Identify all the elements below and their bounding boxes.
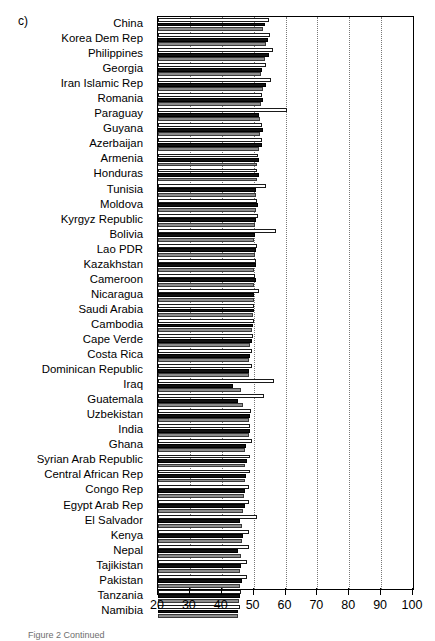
bar-group xyxy=(158,363,413,378)
bar-coping xyxy=(158,57,265,61)
bar-sensitivity xyxy=(158,154,258,158)
bar-resilience xyxy=(158,309,254,313)
bar-coping xyxy=(158,313,253,317)
category-label: Kenya xyxy=(0,528,148,543)
bar-resilience xyxy=(158,218,256,222)
bar-resilience xyxy=(158,23,265,27)
category-label: Philippines xyxy=(0,46,148,61)
bar-resilience xyxy=(158,233,255,237)
x-tick xyxy=(221,588,222,595)
bar-resilience xyxy=(158,188,256,192)
bar-group xyxy=(158,183,413,198)
bar-coping xyxy=(158,223,255,227)
bar-resilience xyxy=(158,173,259,177)
category-label: Cameroon xyxy=(0,272,148,287)
bar-group xyxy=(158,168,413,183)
bar-sensitivity xyxy=(158,244,257,248)
bar-coping xyxy=(158,132,260,136)
bar-coping xyxy=(158,464,245,468)
bar-resilience xyxy=(158,98,263,102)
bar-group xyxy=(158,453,413,468)
bar-sensitivity xyxy=(158,93,262,97)
bar-group xyxy=(158,62,413,77)
bar-coping xyxy=(158,268,254,272)
bar-sensitivity xyxy=(158,409,251,413)
bar-sensitivity xyxy=(158,48,273,52)
bar-resilience xyxy=(158,444,246,448)
bar-resilience xyxy=(158,414,250,418)
bar-group xyxy=(158,544,413,559)
bar-coping xyxy=(158,448,245,452)
bar-group xyxy=(158,333,413,348)
bar-coping xyxy=(158,147,259,151)
category-label: Bolivia xyxy=(0,227,148,242)
category-label: Azerbaijan xyxy=(0,136,148,151)
category-label: El Salvador xyxy=(0,513,148,528)
bar-coping xyxy=(158,403,243,407)
bar-sensitivity xyxy=(158,515,257,519)
bar-sensitivity xyxy=(158,138,262,142)
bar-sensitivity xyxy=(158,485,249,489)
bar-group xyxy=(158,499,413,514)
bar-coping xyxy=(158,494,244,498)
bar-group xyxy=(158,529,413,544)
bar-sensitivity xyxy=(158,289,259,293)
x-tick xyxy=(316,588,317,595)
bar-resilience xyxy=(158,263,256,267)
bar-group xyxy=(158,32,413,47)
x-tick-label: 100 xyxy=(392,598,432,612)
bar-group xyxy=(158,77,413,92)
bar-coping xyxy=(158,27,263,31)
bar-sensitivity xyxy=(158,439,252,443)
bar-coping xyxy=(158,238,254,242)
bar-coping xyxy=(158,208,256,212)
figure-caption: Figure 2 Continued xyxy=(28,630,105,640)
x-tick xyxy=(253,588,254,595)
bar-coping xyxy=(158,178,257,182)
bar-coping xyxy=(158,283,254,287)
bar-group xyxy=(158,198,413,213)
bar-sensitivity xyxy=(158,455,250,459)
bar-group xyxy=(158,243,413,258)
plot-inner xyxy=(158,17,413,589)
category-label: Armenia xyxy=(0,151,148,166)
bar-group xyxy=(158,574,413,589)
bar-group xyxy=(158,273,413,288)
category-label: Uzbekistan xyxy=(0,407,148,422)
category-label: China xyxy=(0,16,148,31)
bar-group xyxy=(158,137,413,152)
bar-sensitivity xyxy=(158,379,274,383)
category-label: India xyxy=(0,422,148,437)
bar-group xyxy=(158,228,413,243)
bar-coping xyxy=(158,298,254,302)
bar-coping xyxy=(158,343,250,347)
category-label: Lao PDR xyxy=(0,242,148,257)
bar-sensitivity xyxy=(158,108,287,112)
category-label: Romania xyxy=(0,91,148,106)
category-label: Guyana xyxy=(0,121,148,136)
bar-resilience xyxy=(158,68,262,72)
bar-group xyxy=(158,423,413,438)
category-label: Korea Dem Rep xyxy=(0,31,148,46)
bar-resilience xyxy=(158,429,250,433)
category-axis-labels: ChinaKorea Dem RepPhilippinesGeorgiaIran… xyxy=(0,16,148,618)
category-label: Dominican Republic xyxy=(0,362,148,377)
bar-sensitivity xyxy=(158,560,247,564)
bar-sensitivity xyxy=(158,18,269,22)
bar-sensitivity xyxy=(158,78,271,82)
bar-group xyxy=(158,318,413,333)
category-label: Cape Verde xyxy=(0,332,148,347)
bar-resilience xyxy=(158,339,252,343)
bar-coping xyxy=(158,102,261,106)
bar-coping xyxy=(158,253,255,257)
category-label: Guatemala xyxy=(0,392,148,407)
bar-group xyxy=(158,438,413,453)
category-label: Costa Rica xyxy=(0,347,148,362)
bar-resilience xyxy=(158,549,238,553)
bar-sensitivity xyxy=(158,304,254,308)
category-label: Kyrgyz Republic xyxy=(0,212,148,227)
bar-coping xyxy=(158,42,266,46)
bar-sensitivity xyxy=(158,63,266,67)
bar-resilience xyxy=(158,143,262,147)
category-label: Nicaragua xyxy=(0,287,148,302)
